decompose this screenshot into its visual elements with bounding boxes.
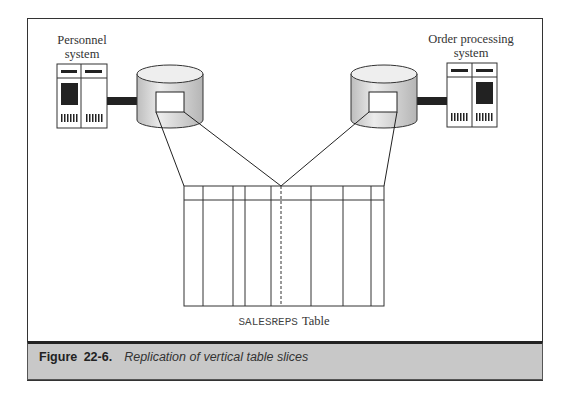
left-system-label-2: system [65,47,100,61]
left-server-icon [57,64,107,128]
right-system-label-1: Order processing [428,32,514,46]
figure-number: Figure 22-6. [39,350,112,364]
left-connector [107,97,137,105]
table-name-label: SALESREPSTable [238,314,329,328]
figure-caption-text: Replication of vertical table slices [124,350,308,364]
right-server-icon [447,63,497,127]
replication-diagram: Personnel system Order processing system [0,0,570,394]
figure-caption: Figure 22-6.Replication of vertical tabl… [27,341,543,380]
salesreps-table [184,186,384,306]
left-system-label-1: Personnel [57,33,107,47]
right-system-label-2: system [454,46,489,60]
right-connector [417,97,447,105]
